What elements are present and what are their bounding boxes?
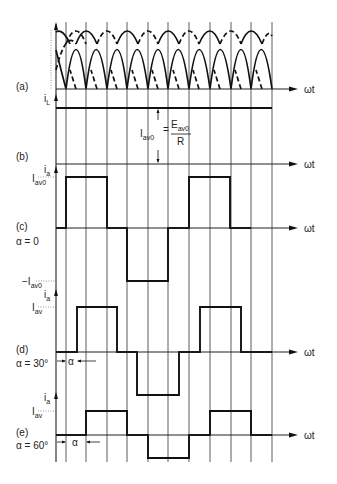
waveform-solid bbox=[56, 50, 272, 90]
panel-c: ia Iav0 ωt (c) α = 0 −Iav0 bbox=[16, 164, 315, 289]
alpha-label-30: α = 30° bbox=[16, 358, 48, 369]
ia-waveform-alpha-0 bbox=[56, 177, 251, 281]
panel-d: ia Iav ωt (d) α = 30° α bbox=[16, 289, 315, 395]
arrow-right-icon bbox=[289, 433, 298, 438]
panel-a: ωt (a) bbox=[16, 30, 315, 95]
panel-e: ia Iav ωt (e) α = 60° α bbox=[16, 392, 315, 458]
axis-label-wt: ωt bbox=[304, 84, 315, 95]
svg-text:Iav: Iav bbox=[32, 302, 43, 315]
svg-text:ωt: ωt bbox=[304, 347, 315, 358]
panel-label-a: (a) bbox=[16, 81, 28, 92]
alpha-marker-d: α bbox=[68, 356, 74, 367]
svg-text:Iav: Iav bbox=[32, 406, 43, 419]
alpha-label-0: α = 0 bbox=[16, 236, 39, 247]
alpha-label-60: α = 60° bbox=[16, 440, 48, 451]
panel-b: iL Iav0 = Eav0 R ωt (b) bbox=[16, 93, 315, 170]
svg-text:Iav0: Iav0 bbox=[140, 128, 154, 141]
svg-text:ia: ia bbox=[44, 289, 50, 302]
svg-text:R: R bbox=[177, 136, 184, 147]
svg-text:ia: ia bbox=[44, 392, 50, 405]
svg-text:Eav0: Eav0 bbox=[171, 119, 189, 132]
rectifier-waveform-diagram: ωt (a) iL Iav0 = Eav0 R ωt (b) ia Iav0 bbox=[0, 0, 337, 484]
waveform-dashed bbox=[56, 31, 272, 89]
arrow-right-icon bbox=[289, 162, 298, 167]
svg-text:=: = bbox=[163, 124, 169, 135]
svg-text:ωt: ωt bbox=[304, 430, 315, 441]
current-label-iL: iL bbox=[44, 93, 50, 106]
axis-arrow-icon bbox=[54, 166, 58, 173]
arrow-right-icon bbox=[289, 87, 298, 92]
panel-label-b: (b) bbox=[16, 151, 28, 162]
svg-text:ωt: ωt bbox=[304, 223, 315, 234]
alpha-marker-e: α bbox=[72, 437, 78, 448]
svg-text:ia: ia bbox=[44, 164, 50, 177]
axis-arrow-icon bbox=[54, 289, 58, 296]
axis-arrow-icon bbox=[54, 22, 58, 30]
panel-label-c: (c) bbox=[16, 221, 28, 232]
panel-label-d: (d) bbox=[16, 344, 28, 355]
axis-arrow-icon bbox=[54, 392, 58, 399]
ia-waveform-alpha-30 bbox=[56, 307, 272, 395]
arrow-right-icon bbox=[289, 350, 298, 355]
svg-text:ωt: ωt bbox=[304, 159, 315, 170]
axis-arrow-icon bbox=[54, 94, 58, 101]
svg-text:−Iav0: −Iav0 bbox=[22, 276, 42, 289]
arrow-right-icon bbox=[289, 226, 298, 231]
panel-label-e: (e) bbox=[16, 427, 28, 438]
